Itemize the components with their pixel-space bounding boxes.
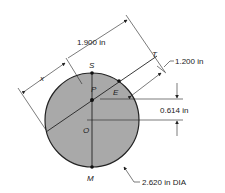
tangent-leader [164,61,174,67]
point-E [117,79,121,83]
tangent-dimension-line [131,73,161,96]
label-E: E [113,88,119,97]
label-S: S [89,61,95,70]
shaft-keyseat-diagram: S P E O M T x 1.900 in 1.200 in 0.614 in… [0,0,225,193]
chord-length-label: 1.900 in [77,38,105,47]
label-M: M [87,174,94,183]
label-x: x [39,74,45,83]
vertical-offset-label: 0.614 in [160,106,188,115]
point-P [90,98,94,102]
diameter-label: 2.620 in DIA [142,178,187,187]
label-O: O [83,126,89,135]
label-P: P [91,85,97,94]
tangent-offset-label: 1.200 in [175,57,203,66]
diameter-leader [124,167,140,182]
extension-line-left [18,88,46,130]
point-S [90,71,94,75]
label-T: T [152,50,158,59]
point-M [90,165,94,169]
